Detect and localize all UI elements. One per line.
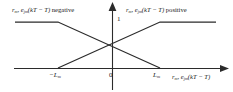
tick-neg-lm-main: −L	[49, 71, 58, 79]
annotation-positive-argument: (kT − T)	[142, 6, 164, 13]
annotation-positive-region: rm, ejm(kT − T) positive	[126, 7, 187, 14]
y-axis-tick-label-one: 1	[117, 16, 121, 23]
annotation-negative-qualifier-text: negative	[52, 6, 74, 13]
decreasing-saturation-line	[15, 22, 160, 68]
increasing-saturation-line	[58, 22, 216, 68]
x-axis-tick-label-negative-lm: −Lm	[49, 72, 61, 79]
annotation-negative-argument: (kT − T)	[28, 6, 50, 13]
x-axis	[14, 65, 229, 72]
annotation-positive-qualifier-text: positive	[166, 6, 187, 13]
x-axis-tick-label-positive-lm: Lm	[153, 72, 160, 79]
tick-neg-lm-sub: m	[58, 74, 61, 79]
x-axis-arrow-icon	[220, 65, 229, 72]
x-axis-title: rm, ejm(kT − T)	[172, 74, 210, 81]
x-axis-tick-label-origin: 0	[109, 72, 113, 79]
membership-function-chart: rm, ejm(kT − T) negative rm, ejm(kT − T)…	[0, 0, 233, 92]
annotation-negative-region: rm, ejm(kT − T) negative	[12, 7, 74, 14]
y-axis-arrow-icon	[109, 2, 117, 11]
tick-pos-lm-sub: m	[157, 74, 160, 79]
xaxis-title-argument: (kT − T)	[188, 73, 210, 80]
